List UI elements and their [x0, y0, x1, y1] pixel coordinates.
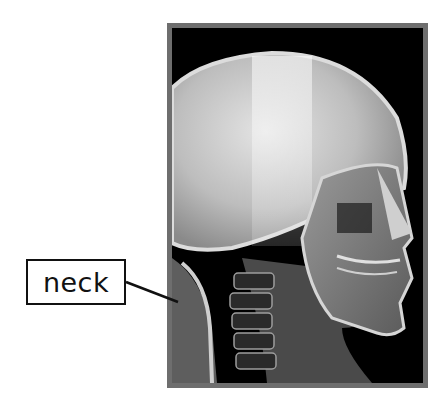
neck-label: neck — [26, 259, 126, 305]
xray-frame — [167, 23, 428, 388]
skull-xray-illustration — [172, 28, 423, 383]
neck-label-text: neck — [43, 267, 109, 298]
cervical-spine — [230, 273, 276, 369]
xray-image — [172, 28, 423, 383]
